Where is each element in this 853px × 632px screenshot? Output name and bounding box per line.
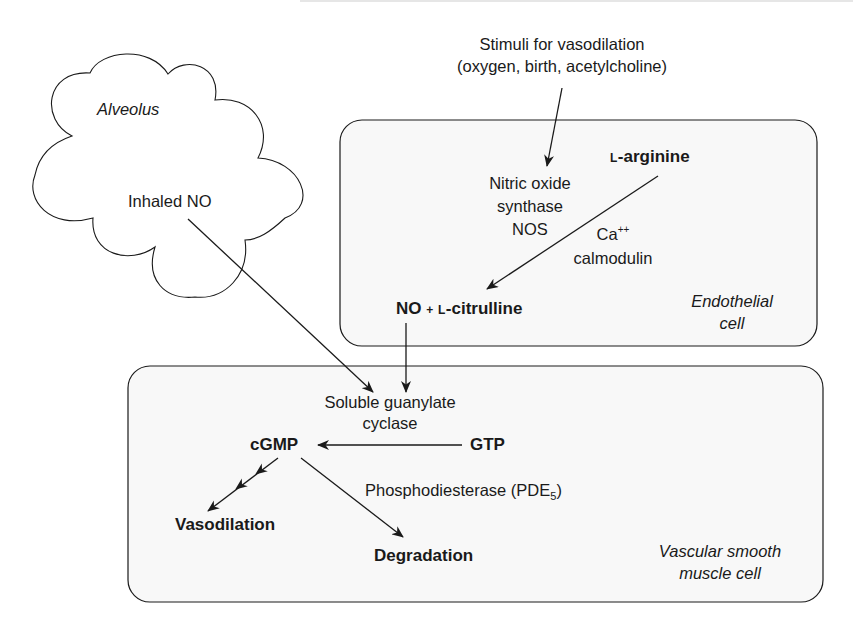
pde-close-paren: ) xyxy=(556,481,562,499)
l-prefix: L xyxy=(610,151,618,165)
smooth-muscle-line-2: muscle cell xyxy=(640,562,800,584)
calcium-text: Ca xyxy=(597,225,618,243)
smooth-muscle-line-1: Vascular smooth xyxy=(640,540,800,562)
no-text: NO xyxy=(396,299,422,318)
pde-text: Phosphodiesterase (PDE xyxy=(365,481,550,499)
stimuli-line-2: (oxygen, birth, acetylcholine) xyxy=(412,55,712,77)
cofactor-label: Ca++ calmodulin xyxy=(558,222,668,270)
sgc-label: Soluble guanylate cyclase xyxy=(305,392,475,434)
endothelial-line-2: cell xyxy=(672,312,792,334)
nos-line-2: synthase xyxy=(470,195,590,218)
no-citrulline-label: NO + L-citrulline xyxy=(396,298,522,321)
sgc-line-1: Soluble guanylate xyxy=(305,392,475,413)
alveolus-label: Alveolus xyxy=(97,98,159,120)
calcium-label: Ca++ xyxy=(558,222,668,246)
gtp-label: GTP xyxy=(470,434,505,456)
stimuli-label: Stimuli for vasodilation (oxygen, birth,… xyxy=(412,33,712,77)
nos-line-1: Nitric oxide xyxy=(470,172,590,195)
l-prefix: L xyxy=(438,303,446,317)
smooth-muscle-cell-label: Vascular smooth muscle cell xyxy=(640,540,800,584)
inhaled-no-label: Inhaled NO xyxy=(128,190,211,212)
citrulline-text: -citrulline xyxy=(446,299,523,318)
vasodilation-label: Vasodilation xyxy=(175,514,275,536)
stimuli-line-1: Stimuli for vasodilation xyxy=(412,33,712,55)
alveolus-cloud-shape xyxy=(33,54,303,297)
l-arginine-label: L-arginine xyxy=(610,146,690,169)
pde5-label: Phosphodiesterase (PDE5) xyxy=(365,479,562,501)
arginine-name: -arginine xyxy=(618,147,690,166)
calcium-charge: ++ xyxy=(618,224,630,235)
plus-text: + xyxy=(426,303,433,317)
degradation-label: Degradation xyxy=(374,545,473,567)
endothelial-cell-label: Endothelial cell xyxy=(672,290,792,334)
sgc-line-2: cyclase xyxy=(305,413,475,434)
calmodulin-label: calmodulin xyxy=(558,246,668,270)
cgmp-label: cGMP xyxy=(250,434,298,456)
endothelial-line-1: Endothelial xyxy=(672,290,792,312)
